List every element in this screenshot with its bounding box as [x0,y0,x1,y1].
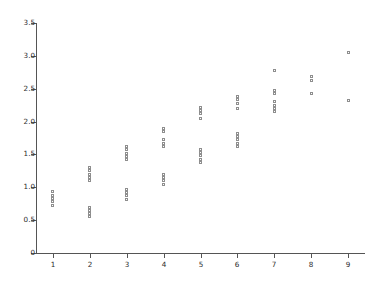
data-point [273,92,276,95]
data-point [199,117,202,120]
data-point [88,179,91,182]
x-tick-label: 1 [43,261,63,268]
data-point [162,130,165,133]
data-point [347,51,350,54]
x-tick-mark [201,253,202,258]
y-tick-label: 2.5 [9,85,35,92]
scatter-plot-figure: 00.51.01.52.02.53.03.5 123456789 [0,0,382,283]
data-point [125,158,128,161]
data-point [236,102,239,105]
x-tick-label: 9 [338,261,358,268]
data-point [51,204,54,207]
x-tick-label: 4 [154,261,174,268]
x-tick-label: 3 [117,261,137,268]
y-tick-label: 0 [9,249,35,256]
data-point [199,112,202,115]
data-point [347,99,350,102]
plot-area [36,23,365,253]
x-tick-mark [127,253,128,258]
x-tick-mark [53,253,54,258]
x-tick-label: 8 [301,261,321,268]
data-point [199,161,202,164]
y-tick-label: 3.5 [9,19,35,26]
data-point [88,215,91,218]
x-tick-label: 6 [227,261,247,268]
x-tick-mark [90,253,91,258]
x-tick-mark [274,253,275,258]
data-point [310,92,313,95]
y-tick-label: 1.0 [9,183,35,190]
x-tick-label: 7 [264,261,284,268]
x-tick-label: 2 [80,261,100,268]
data-point [162,145,165,148]
data-point [273,69,276,72]
data-point [162,183,165,186]
x-tick-mark [311,253,312,258]
data-point [273,110,276,113]
x-tick-label: 5 [191,261,211,268]
y-tick-label: 3.0 [9,52,35,59]
y-tick-label: 1.5 [9,150,35,157]
y-tick-label: 0.5 [9,216,35,223]
x-tick-mark [237,253,238,258]
data-point [236,107,239,110]
x-tick-mark [164,253,165,258]
data-point [236,145,239,148]
x-tick-mark [348,253,349,258]
y-tick-label: 2.0 [9,118,35,125]
data-point [125,198,128,201]
data-point [310,79,313,82]
